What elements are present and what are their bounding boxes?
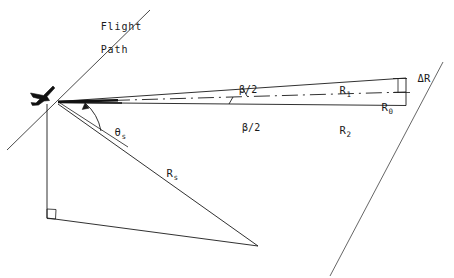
- range-near-subscript: 1: [346, 90, 351, 99]
- range-far-label: R2: [313, 112, 351, 150]
- range-far-subscript: 2: [346, 130, 351, 139]
- flight-path-label-line2: Path: [101, 44, 129, 55]
- ground-base-line: [47, 218, 258, 246]
- flight-path-label: Flight Path: [73, 9, 142, 68]
- delta-range-label: ΔR: [391, 60, 431, 97]
- slant-range-subscript: s: [173, 173, 178, 182]
- aircraft-body: [31, 86, 55, 105]
- beta-half-upper-label: β/2: [215, 72, 257, 107]
- flight-path-label-line1: Flight: [101, 21, 143, 32]
- beam-apex-highlight: [58, 100, 118, 102]
- slant-range-label: Rs: [140, 155, 178, 193]
- range-near-label: R1: [313, 72, 351, 110]
- right-angle-marker: [47, 209, 56, 219]
- sar-geometry-diagram: Flight Path β/2 β/2 R1 R2 R0 ΔR θs Rs: [0, 0, 454, 278]
- range-center-subscript: 0: [388, 107, 393, 116]
- theta-squint-subscript: s: [121, 132, 126, 141]
- aircraft-icon: [22, 84, 58, 110]
- beta-half-lower-label: β/2: [218, 110, 260, 145]
- theta-squint-label: θs: [88, 114, 126, 152]
- range-center-label: R0: [355, 89, 393, 127]
